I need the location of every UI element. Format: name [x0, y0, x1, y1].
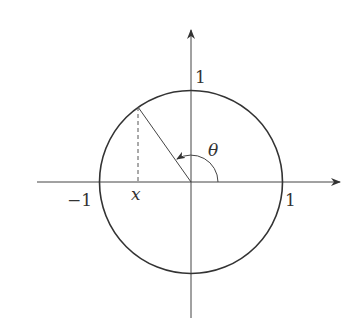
y-axis-one-label: 1 [195, 67, 206, 87]
diagram-canvas: 1 1 −1 x θ [0, 0, 351, 326]
x-axis-neg-one-label: −1 [67, 190, 92, 210]
unit-circle-diagram: 1 1 −1 x θ [0, 0, 351, 326]
x-point-label: x [131, 184, 141, 204]
radius-line [138, 107, 191, 182]
theta-label: θ [208, 140, 218, 160]
x-axis-one-label: 1 [285, 190, 296, 210]
